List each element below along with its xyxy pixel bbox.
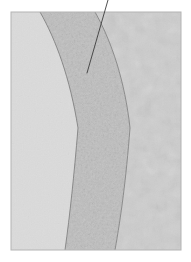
figure-root [0,0,191,262]
image-panel [11,12,181,250]
micrograph-figure [0,0,191,262]
